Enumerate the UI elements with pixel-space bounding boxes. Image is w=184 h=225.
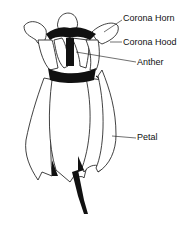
lower-dark-band (48, 68, 96, 83)
label-corona-horn: Corona Horn (123, 13, 175, 23)
anther-column (66, 38, 74, 66)
label-petal: Petal (137, 132, 158, 142)
flower-diagram (0, 0, 184, 225)
label-anther: Anther (137, 57, 164, 67)
label-corona-hood: Corona Hood (123, 37, 177, 47)
